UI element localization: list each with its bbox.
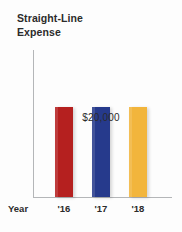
x-tick-label-2017: '17 xyxy=(88,203,114,214)
straight-line-expense-chart: Straight-Line Expense $20,000 Year '16 '… xyxy=(0,0,182,232)
x-axis-title: Year xyxy=(8,203,28,214)
x-tick-label-2016: '16 xyxy=(51,203,77,214)
chart-title: Straight-Line Expense xyxy=(17,11,137,39)
plot-area xyxy=(33,50,172,197)
x-axis-line xyxy=(33,197,172,198)
x-tick-label-2018: '18 xyxy=(125,203,151,214)
value-annotation: $20,000 xyxy=(64,112,138,123)
